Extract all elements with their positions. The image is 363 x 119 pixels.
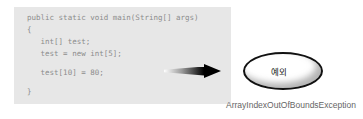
- code-line: int[] test;: [27, 36, 199, 48]
- code-line: [27, 79, 199, 86]
- exception-class-caption: ArrayIndexOutOfBoundsException: [226, 100, 363, 110]
- code-line: }: [27, 86, 199, 98]
- exception-bubble: 예외: [243, 52, 323, 90]
- code-snippet-box: public static void main(String[] args) {…: [14, 7, 231, 104]
- code-line: public static void main(String[] args): [27, 12, 199, 24]
- code-snippet: public static void main(String[] args) {…: [27, 12, 199, 98]
- arrow-shaft: [164, 67, 204, 76]
- exception-diagram: public static void main(String[] args) {…: [0, 0, 363, 119]
- gradient-right-arrow-icon: [164, 64, 221, 78]
- exception-bubble-label: 예외: [271, 65, 287, 77]
- code-line: test = new int[5];: [27, 48, 199, 60]
- code-line: {: [27, 24, 199, 36]
- arrow-head: [204, 64, 221, 78]
